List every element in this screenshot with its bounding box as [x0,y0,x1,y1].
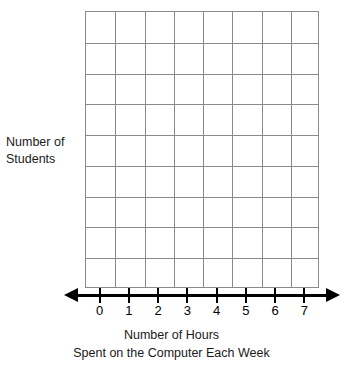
plot-grid [85,11,319,288]
y-axis-label-line-1: Number of [6,135,64,149]
x-axis-tick [245,288,247,303]
grid-horizontal-lines [86,12,318,287]
x-axis-tick-label: 3 [175,303,199,319]
x-axis-caption-line-1: Number of Hours [0,326,343,344]
x-axis-tick-label: 1 [117,303,141,319]
x-axis-tick [99,288,101,303]
grid-line-horizontal [86,197,318,198]
y-axis-label-line-2: Students [6,152,55,166]
x-axis-tick-label: 7 [292,303,316,319]
arrow-right-icon [326,288,340,302]
grid-line-horizontal [86,166,318,167]
x-axis-line [76,294,328,297]
x-axis-tick-label: 2 [146,303,170,319]
x-axis-tick-label: 0 [88,303,112,319]
x-axis-tick-labels: 01234567 [64,303,340,321]
grid-line-horizontal [86,43,318,44]
x-axis-caption-line-2: Spent on the Computer Each Week [0,344,343,362]
x-axis-tick [274,288,276,303]
grid-line-horizontal [86,258,318,259]
grid-line-horizontal [86,227,318,228]
arrow-left-icon [64,288,78,302]
x-axis-tick-label: 6 [263,303,287,319]
y-axis-label: Number of Students [6,134,82,168]
x-axis-tick [157,288,159,303]
x-axis-tick [303,288,305,303]
x-axis-caption: Number of Hours Spent on the Computer Ea… [0,326,343,362]
x-axis-tick [128,288,130,303]
x-axis-tick [186,288,188,303]
x-axis-tick-label: 5 [234,303,258,319]
x-axis-tick-label: 4 [205,303,229,319]
grid-line-horizontal [86,104,318,105]
grid-line-horizontal [86,135,318,136]
x-axis-tick [216,288,218,303]
grid-line-horizontal [86,74,318,75]
